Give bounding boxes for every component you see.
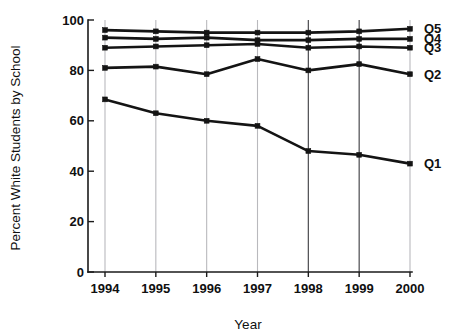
series-marker-Q1-1994 — [103, 97, 108, 102]
series-marker-Q3-1995 — [153, 44, 158, 49]
series-marker-Q1-1996 — [204, 118, 209, 123]
series-marker-Q3-1997 — [255, 42, 260, 47]
series-marker-Q4-2000 — [408, 37, 413, 42]
x-tick-label-1994: 1994 — [91, 281, 121, 296]
series-marker-Q1-1999 — [357, 152, 362, 157]
series-marker-Q2-1997 — [255, 57, 260, 62]
series-marker-Q1-1995 — [153, 111, 158, 116]
x-tick-label-1996: 1996 — [192, 281, 221, 296]
x-tick-label-1997: 1997 — [243, 281, 272, 296]
series-label-Q1: Q1 — [424, 156, 441, 171]
y-tick-label-100: 100 — [62, 13, 84, 28]
series-marker-Q2-1996 — [204, 72, 209, 77]
x-axis-title: Year — [234, 317, 262, 332]
series-marker-Q4-1995 — [153, 37, 158, 42]
series-marker-Q2-1994 — [103, 65, 108, 70]
series-marker-Q1-2000 — [408, 161, 413, 166]
x-tick-label-1999: 1999 — [345, 281, 374, 296]
series-labels: Q5Q4Q3Q2Q1 — [424, 21, 442, 171]
series-marker-Q3-1999 — [357, 44, 362, 49]
series-label-Q2: Q2 — [424, 67, 441, 82]
y-tick-label-20: 20 — [70, 214, 84, 229]
series-marker-Q2-1998 — [306, 68, 311, 73]
series-marker-Q2-2000 — [408, 72, 413, 77]
x-axis-ticks: 1994199519961997199819992000 — [91, 272, 425, 296]
series-marker-Q5-1995 — [153, 29, 158, 34]
series-marker-Q5-1994 — [103, 28, 108, 33]
y-axis-title: Percent White Students by School — [8, 46, 23, 251]
x-tick-label-2000: 2000 — [396, 281, 425, 296]
series-marker-Q3-1994 — [103, 45, 108, 50]
y-tick-label-0: 0 — [77, 265, 84, 280]
axes — [88, 20, 412, 272]
series-marker-Q4-1999 — [357, 37, 362, 42]
series-label-Q3: Q3 — [424, 40, 441, 55]
series-marker-Q4-1994 — [103, 35, 108, 40]
series-marker-Q5-1999 — [357, 29, 362, 34]
y-tick-label-40: 40 — [70, 164, 84, 179]
line-chart: 020406080100 199419951996199719981999200… — [0, 0, 459, 336]
series-marker-Q5-1997 — [255, 30, 260, 35]
series-marker-Q2-1995 — [153, 64, 158, 69]
series-marker-Q5-2000 — [408, 26, 413, 31]
series-marker-Q4-1996 — [204, 35, 209, 40]
y-axis-ticks: 020406080100 — [62, 13, 94, 280]
x-tick-label-1995: 1995 — [141, 281, 170, 296]
series-marker-Q3-1996 — [204, 43, 209, 48]
series-marker-Q2-1999 — [357, 62, 362, 67]
series-marker-Q4-1998 — [306, 38, 311, 43]
chart-container: 020406080100 199419951996199719981999200… — [0, 0, 459, 336]
series-marker-Q3-2000 — [408, 45, 413, 50]
series-marker-Q5-1998 — [306, 30, 311, 35]
y-tick-label-80: 80 — [70, 63, 84, 78]
series-marker-Q3-1998 — [306, 45, 311, 50]
series-marker-Q5-1996 — [204, 30, 209, 35]
series-marker-Q1-1997 — [255, 123, 260, 128]
y-tick-label-60: 60 — [70, 113, 84, 128]
x-tick-label-1998: 1998 — [294, 281, 323, 296]
series-marker-Q1-1998 — [306, 149, 311, 154]
